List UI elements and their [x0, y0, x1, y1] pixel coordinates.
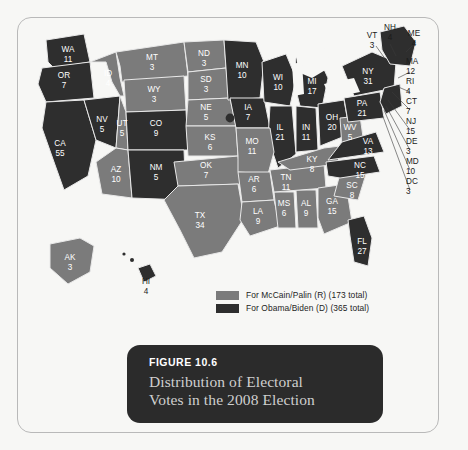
nebraska-second-district-dot [226, 114, 235, 123]
state-label-WI-votes: 10 [273, 83, 283, 92]
state-label-NY-abbr: NY [362, 67, 374, 76]
state-label-KS-abbr: KS [205, 133, 216, 142]
lake-michigan [292, 62, 304, 96]
state-label-WA-votes: 11 [64, 55, 73, 64]
state-label-CO-votes: 9 [154, 129, 159, 138]
callout-label-NJ-abbr: NJ [406, 117, 416, 126]
state-label-UT-votes: 5 [120, 129, 125, 138]
state-label-CO-abbr: CO [150, 119, 162, 128]
state-label-PA-abbr: PA [357, 99, 368, 108]
state-label-SC-abbr: SC [346, 181, 357, 190]
state-label-TN-votes: 11 [282, 183, 291, 192]
state-label-MN-votes: 10 [237, 71, 247, 80]
state-label-OH-abbr: OH [326, 113, 338, 122]
callout-label-MA-abbr: MA [406, 57, 419, 66]
state-label-SD-votes: 3 [204, 85, 209, 94]
callout-label-ME-votes: 4 [412, 39, 417, 48]
state-label-WV-abbr: WV [343, 123, 357, 132]
hawaii-island-dot-2 [122, 252, 125, 255]
callout-label-NH-votes: 4 [388, 33, 393, 42]
state-label-TX-votes: 34 [195, 221, 205, 230]
state-label-IN-abbr: IN [302, 123, 310, 132]
callout-label-VT-votes: 3 [370, 41, 375, 50]
state-shape-SD [188, 68, 230, 100]
legend-item-republican: For McCain/Palin (R) (173 total) [216, 290, 369, 300]
state-label-HI-votes: 4 [144, 287, 149, 296]
state-label-SC-votes: 8 [350, 191, 355, 200]
state-label-MS-abbr: MS [278, 199, 291, 208]
state-label-VA-abbr: VA [363, 137, 374, 146]
state-label-OK-votes: 7 [204, 171, 209, 180]
state-label-MO-votes: 11 [248, 147, 257, 156]
state-label-AZ-abbr: AZ [111, 165, 121, 174]
map-legend: For McCain/Palin (R) (173 total) For Oba… [216, 290, 369, 316]
state-label-ND-votes: 3 [202, 59, 207, 68]
state-label-OR-votes: 7 [62, 81, 67, 90]
state-label-NY-votes: 31 [363, 77, 373, 86]
state-label-IL-votes: 21 [275, 133, 285, 142]
figure-title: Distribution of Electoral Votes in the 2… [149, 373, 383, 410]
state-label-SD-abbr: SD [200, 75, 211, 84]
state-label-ID-abbr: ID [104, 69, 112, 78]
callout-label-RI-votes: 4 [406, 87, 411, 96]
callout-label-DE-abbr: DE [406, 137, 418, 146]
state-label-WV-votes: 5 [348, 133, 353, 142]
state-label-IA-abbr: IA [244, 103, 252, 112]
state-label-KS-votes: 6 [208, 143, 213, 152]
state-shape-MN [224, 40, 264, 100]
state-label-IN-votes: 11 [302, 133, 311, 142]
electoral-map-figure: WA 11 OR 7 CA 55 NV 5 ID 4 MT 3 WY 3 UT … [0, 0, 468, 450]
state-label-MS-votes: 6 [282, 209, 287, 218]
hawaii-island-dot [130, 258, 134, 262]
figure-title-line-2: Votes in the 2008 Election [149, 391, 383, 409]
state-label-OK-abbr: OK [200, 161, 212, 170]
callout-label-MD-votes: 10 [406, 167, 416, 176]
state-label-WA-abbr: WA [62, 45, 75, 54]
map-svg: WA 11 OR 7 CA 55 NV 5 ID 4 MT 3 WY 3 UT … [24, 22, 428, 322]
state-label-MT-abbr: MT [146, 53, 158, 62]
state-label-OH-votes: 20 [327, 123, 337, 132]
callout-label-DE-votes: 3 [406, 147, 411, 156]
legend-label-democrat: For Obama/Biden (D) (365 total) [246, 303, 369, 313]
state-label-TX-abbr: TX [195, 211, 206, 220]
state-label-FL-abbr: FL [357, 237, 367, 246]
state-label-MO-abbr: MO [245, 137, 258, 146]
state-label-FL-votes: 27 [357, 247, 367, 256]
callout-label-DC-votes: 3 [406, 187, 411, 196]
state-label-UT-abbr: UT [117, 119, 128, 128]
figure-title-line-1: Distribution of Electoral [149, 373, 383, 391]
callout-label-RI-abbr: RI [406, 77, 414, 86]
callout-label-VT-abbr: VT [367, 31, 377, 40]
callout-label-NH-abbr: NH [384, 23, 396, 32]
state-label-CA-votes: 55 [55, 149, 65, 158]
state-label-AL-votes: 9 [304, 209, 309, 218]
state-label-AL-abbr: AL [301, 199, 311, 208]
state-label-NE-abbr: NE [200, 103, 212, 112]
us-electoral-map: WA 11 OR 7 CA 55 NV 5 ID 4 MT 3 WY 3 UT … [24, 22, 428, 322]
state-label-AR-abbr: AR [248, 175, 259, 184]
state-label-NM-abbr: NM [150, 163, 163, 172]
state-label-AK-votes: 3 [68, 263, 73, 272]
legend-swatch-democrat [216, 304, 239, 313]
state-label-MI-abbr: MI [307, 77, 316, 86]
state-shape-WY [124, 76, 186, 112]
callout-label-ME-abbr: ME [408, 29, 421, 38]
legend-label-republican: For McCain/Palin (R) (173 total) [246, 290, 367, 300]
state-label-OR-abbr: OR [58, 71, 70, 80]
state-label-MN-abbr: MN [236, 61, 249, 70]
state-label-MT-votes: 3 [150, 63, 155, 72]
callout-label-CT-abbr: CT [406, 97, 417, 106]
state-label-NE-votes: 5 [204, 113, 209, 122]
state-label-IL-abbr: IL [277, 123, 284, 132]
state-label-AK-abbr: AK [65, 253, 76, 262]
state-label-PA-votes: 21 [357, 109, 367, 118]
state-label-MI-votes: 17 [307, 87, 317, 96]
state-label-GA-abbr: GA [326, 197, 338, 206]
state-label-NM-votes: 5 [154, 173, 159, 182]
state-label-VA-votes: 13 [363, 147, 373, 156]
legend-item-democrat: For Obama/Biden (D) (365 total) [216, 303, 369, 313]
state-label-IA-votes: 7 [246, 113, 251, 122]
state-label-KY-abbr: KY [307, 155, 318, 164]
state-label-ND-abbr: ND [198, 49, 210, 58]
state-label-TN-abbr: TN [281, 173, 292, 182]
